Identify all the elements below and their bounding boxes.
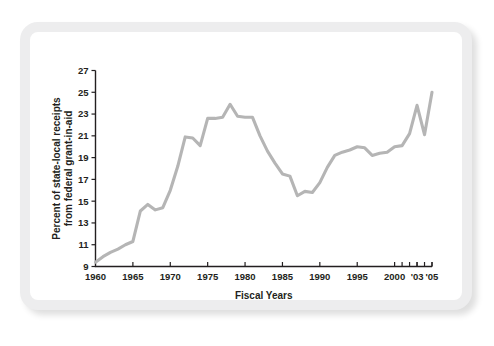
figure-root: 9111315171921232527 19601965197019751980… — [0, 0, 494, 346]
figure-frame — [20, 22, 472, 310]
